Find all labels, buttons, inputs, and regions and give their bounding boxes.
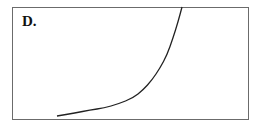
data-curve <box>57 7 182 116</box>
line-plot <box>0 0 260 134</box>
